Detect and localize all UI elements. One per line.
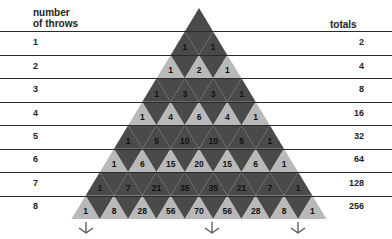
- cell-value: 8: [282, 206, 287, 216]
- cell-value: 15: [166, 159, 176, 169]
- cell-value: 1: [168, 65, 173, 75]
- throws-label: 2: [33, 61, 38, 71]
- cell-value: 56: [223, 206, 233, 216]
- total-label: 32: [354, 131, 364, 141]
- cell-value: 8: [112, 206, 117, 216]
- cell-value: 6: [140, 159, 145, 169]
- throws-label: 1: [33, 37, 38, 47]
- arrow-down-icon: [291, 222, 305, 233]
- throws-label: 8: [33, 201, 38, 211]
- cell-value: 1: [83, 206, 88, 216]
- cell-value: 10: [208, 136, 218, 146]
- throws-label: 5: [33, 131, 38, 141]
- cell-value: 5: [239, 136, 244, 146]
- cell-value: 3: [182, 89, 187, 99]
- total-label: 256: [349, 201, 364, 211]
- throws-label: 7: [33, 178, 38, 188]
- arrow-down-icon: [79, 222, 93, 233]
- row-divider: [0, 55, 392, 56]
- arrow-down-icon: [205, 222, 219, 233]
- cell-value: 21: [237, 183, 247, 193]
- throws-label: 6: [33, 154, 38, 164]
- cell-value: 6: [253, 159, 258, 169]
- row-divider: [0, 196, 392, 197]
- row-divider: [0, 125, 392, 126]
- cell-value: 7: [267, 183, 272, 193]
- row-divider: [0, 78, 392, 79]
- cell-value: 35: [180, 183, 190, 193]
- row-divider: [0, 149, 392, 150]
- total-label: 8: [359, 84, 364, 94]
- cell-value: 70: [194, 206, 204, 216]
- cell-value: 1: [253, 112, 258, 122]
- cell-value: 3: [211, 89, 216, 99]
- cell-value: 1: [310, 206, 315, 216]
- cell-value: 1: [267, 136, 272, 146]
- cell-value: 1: [211, 42, 216, 52]
- cell-value: 4: [168, 112, 173, 122]
- cell-value: 1: [282, 159, 287, 169]
- cell-value: 6: [197, 112, 202, 122]
- cell-value: 1: [296, 183, 301, 193]
- row-divider: [0, 102, 392, 103]
- cell-value: 1: [225, 65, 230, 75]
- cell-value: 21: [152, 183, 162, 193]
- total-label: 128: [349, 178, 364, 188]
- cell-value: 35: [208, 183, 218, 193]
- total-label: 64: [354, 154, 364, 164]
- cell-value: 28: [251, 206, 261, 216]
- cell-value: 7: [126, 183, 131, 193]
- cell-value: 10: [180, 136, 190, 146]
- cell-value: 2: [197, 65, 202, 75]
- cell-value: 1: [140, 112, 145, 122]
- throws-label: 3: [33, 84, 38, 94]
- total-label: 16: [354, 108, 364, 118]
- row-divider: [0, 172, 392, 173]
- cell-value: 5: [154, 136, 159, 146]
- cell-value: 1: [112, 159, 117, 169]
- cell-value: 4: [225, 112, 230, 122]
- cell-value: 1: [97, 183, 102, 193]
- cell-value: 56: [166, 206, 176, 216]
- cell-value: 15: [223, 159, 233, 169]
- pascal-triangle: 1112113311464115101051161520156117213535…: [0, 0, 392, 239]
- cell-value: 1: [239, 89, 244, 99]
- cell-value: 1: [154, 89, 159, 99]
- up-cell: [185, 8, 213, 31]
- cell-value: 28: [138, 206, 148, 216]
- cell-value: 1: [182, 42, 187, 52]
- total-label: 4: [359, 61, 364, 71]
- throws-label: 4: [33, 108, 38, 118]
- cell-value: 1: [126, 136, 131, 146]
- total-label: 2: [359, 37, 364, 47]
- cell-value: 20: [194, 159, 204, 169]
- row-divider: [0, 31, 392, 32]
